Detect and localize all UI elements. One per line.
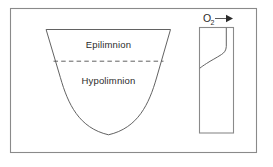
hypolimnion-label: Hypolimnion [82,75,136,86]
lake-stratification-figure: Epilimnion Hypolimnion O 2 [0,0,273,167]
figure-background [0,0,273,167]
epilimnion-label: Epilimnion [86,39,131,50]
figure-canvas: Epilimnion Hypolimnion O 2 [0,0,273,167]
oxygen-subscript-label: 2 [211,19,215,26]
